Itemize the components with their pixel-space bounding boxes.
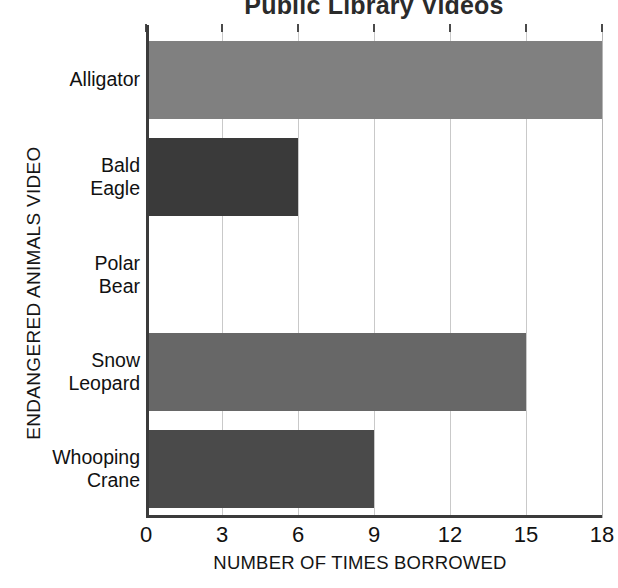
x-tick-label-3: 3 (216, 521, 228, 549)
tick-mark-18 (601, 24, 603, 32)
value-axis-line (146, 25, 149, 518)
tick-mark-3 (221, 24, 223, 32)
tick-mark-15 (525, 24, 527, 32)
x-tick-label-12: 12 (438, 521, 462, 549)
x-tick-label-0: 0 (140, 521, 152, 549)
x-axis-title: NUMBER OF TIMES BORROWED (120, 552, 600, 574)
category-axis-line (146, 515, 602, 518)
category-axis-labels: AlligatorBald EaglePolar BearSnow Leopar… (12, 31, 140, 518)
chart-title: Public Library Videos (146, 0, 602, 22)
x-tick-label-18: 18 (590, 521, 614, 549)
category-label-whooping-crane: Whooping Crane (12, 446, 140, 492)
bar-chart: Public Library Videos ENDANGERED ANIMALS… (0, 0, 618, 588)
category-label-snow-leopard: Snow Leopard (12, 349, 140, 395)
tick-mark-6 (297, 24, 299, 32)
category-label-bald-eagle: Bald Eagle (12, 154, 140, 200)
bar-alligator (146, 41, 602, 119)
x-axis-tick-labels: 0369121518 (146, 521, 602, 551)
category-label-polar-bear: Polar Bear (12, 252, 140, 298)
x-tick-label-9: 9 (368, 521, 380, 549)
bar-whooping-crane (146, 430, 374, 508)
x-tick-label-15: 15 (514, 521, 538, 549)
x-tick-label-6: 6 (292, 521, 304, 549)
tick-mark-9 (373, 24, 375, 32)
bar-snow-leopard (146, 333, 526, 411)
category-label-alligator: Alligator (12, 68, 140, 91)
tick-mark-12 (449, 24, 451, 32)
bar-bald-eagle (146, 138, 298, 216)
plot-area (146, 31, 602, 518)
